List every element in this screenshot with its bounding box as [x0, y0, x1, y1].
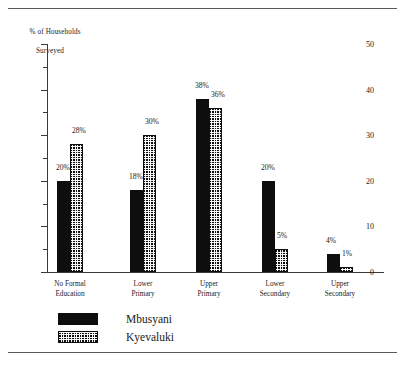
bar-kyevaluki: [209, 108, 222, 272]
top-divider-rule: [8, 8, 397, 9]
y-tick-minor: [43, 249, 47, 250]
y-tick-major: [41, 90, 47, 91]
bar-value-label: 18%: [129, 173, 143, 181]
legend-item: Mbusyani: [58, 311, 288, 329]
bar-kyevaluki: [275, 249, 288, 272]
y-tick-major: [41, 44, 47, 45]
y-tick-major: [41, 135, 47, 136]
legend-label: Kyevaluki: [126, 329, 174, 345]
bar-value-label: 5%: [277, 232, 287, 240]
y-tick-label: 0: [370, 268, 374, 277]
bar-mbusyani: [196, 99, 209, 272]
legend-item: Kyevaluki: [58, 329, 288, 347]
legend-label: Mbusyani: [126, 311, 172, 327]
y-tick-label: 20: [366, 176, 374, 185]
y-tick-label: 30: [366, 131, 374, 140]
bar-value-label: 28%: [72, 127, 86, 135]
y-axis-title-line1: % of Households: [30, 28, 81, 36]
y-tick-minor: [43, 158, 47, 159]
bar-value-label: 38%: [195, 82, 209, 90]
bar-group: 18%30%: [130, 44, 156, 272]
bar-mbusyani: [57, 181, 70, 272]
plot-area: 01020304050 20%28%18%30%38%36%20%5%4%1% …: [47, 44, 384, 272]
y-tick-minor: [43, 112, 47, 113]
bar-group: 20%5%: [262, 44, 288, 272]
bar-value-label: 4%: [326, 237, 336, 245]
bar-value-label: 36%: [211, 91, 225, 99]
bar-kyevaluki: [340, 267, 353, 272]
y-tick-major: [41, 181, 47, 182]
bar-mbusyani: [262, 181, 275, 272]
y-tick-major: [41, 226, 47, 227]
y-tick-minor: [43, 204, 47, 205]
chart-legend: MbusyaniKyevaluki: [58, 311, 288, 347]
chart-figure: % of Households Surveyed 01020304050 20%…: [0, 0, 405, 365]
bar-value-label: 1%: [342, 250, 352, 258]
bar-group: 20%28%: [57, 44, 83, 272]
y-tick-label: 10: [366, 222, 374, 231]
y-axis-line: [47, 44, 48, 272]
x-axis-line: [46, 272, 384, 273]
legend-swatch: [58, 331, 98, 343]
y-tick-label: 50: [366, 40, 374, 49]
x-category-label: Upper Secondary: [300, 280, 380, 299]
bar-group: 4%1%: [327, 44, 353, 272]
legend-swatch: [58, 313, 98, 325]
bar-value-label: 20%: [56, 164, 70, 172]
bottom-divider-rule: [8, 352, 397, 353]
x-category-label: No Formal Education: [30, 280, 110, 299]
bar-group: 38%36%: [196, 44, 222, 272]
y-tick-minor: [43, 67, 47, 68]
bar-kyevaluki: [70, 144, 83, 272]
bar-value-label: 20%: [261, 164, 275, 172]
bar-value-label: 30%: [145, 118, 159, 126]
bar-mbusyani: [327, 254, 340, 272]
y-tick-major: [41, 272, 47, 273]
bar-mbusyani: [130, 190, 143, 272]
y-tick-label: 40: [366, 85, 374, 94]
bar-kyevaluki: [143, 135, 156, 272]
